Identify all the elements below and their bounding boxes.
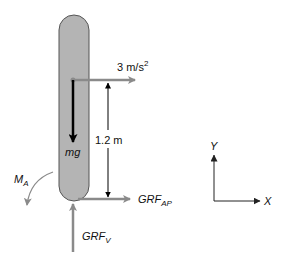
y-axis-label: Y <box>210 140 218 152</box>
weight-label: mg <box>65 146 81 158</box>
moment-label: MA <box>14 173 29 188</box>
grf-v-label: GRFV <box>82 230 111 245</box>
moment-arrow-icon <box>27 172 53 205</box>
free-body-diagram: 3 m/s2 mg 1.2 m GRFAP GRFV MA Y X <box>0 0 288 261</box>
distance-label: 1.2 m <box>95 134 123 146</box>
x-axis-label: X <box>263 195 272 207</box>
acceleration-label: 3 m/s2 <box>117 59 149 73</box>
grf-ap-label: GRFAP <box>138 193 173 208</box>
